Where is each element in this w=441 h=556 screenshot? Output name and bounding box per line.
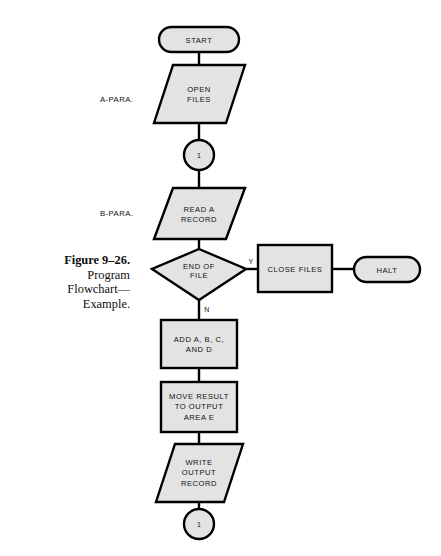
add-abcd-label-line2: AND D: [186, 345, 212, 354]
node-end-of-file-decision[interactable]: END OF FILE: [152, 249, 246, 300]
open-files-label-line2: FILES: [187, 95, 211, 104]
add-abcd-label-line1: ADD A, B, C,: [174, 335, 225, 344]
node-write-output[interactable]: WRITE OUTPUT RECORD: [156, 444, 243, 502]
read-record-label-line1: READ A: [183, 205, 215, 214]
branch-label-no: N: [204, 306, 209, 313]
figure-caption: Figure 9–26. Program Flowchart— Example.: [6, 253, 130, 311]
write-output-label-line3: RECORD: [181, 479, 217, 488]
branch-label-yes: Y: [249, 258, 254, 265]
node-start[interactable]: START: [159, 27, 239, 52]
b-para-label: B-PARA.: [100, 209, 133, 218]
connector-top-label: 1: [197, 152, 201, 159]
caption-line-1: Figure 9–26.: [6, 253, 130, 268]
open-files-label-line1: OPEN: [187, 85, 211, 94]
node-read-record[interactable]: READ A RECORD: [154, 188, 245, 239]
node-close-files[interactable]: CLOSE FILES: [258, 245, 332, 292]
write-output-label-line2: OUTPUT: [182, 468, 217, 477]
node-open-files[interactable]: OPEN FILES: [154, 65, 245, 123]
caption-line-4: Example.: [6, 297, 130, 312]
write-output-label-line1: WRITE: [185, 458, 212, 467]
read-record-label-line2: RECORD: [181, 215, 217, 224]
move-result-label-line3: AREA E: [184, 413, 215, 422]
close-files-label: CLOSE FILES: [267, 265, 322, 274]
a-para-label: A-PARA.: [100, 95, 133, 104]
move-result-label-line2: TO OUTPUT: [175, 402, 224, 411]
end-of-file-label-line2: FILE: [190, 271, 208, 280]
connector-bottom-label: 1: [197, 521, 201, 528]
node-connector-top[interactable]: 1: [184, 140, 214, 170]
node-connector-bottom[interactable]: 1: [184, 509, 214, 539]
program-flowchart-figure: START OPEN FILES 1 READ A RECORD END OF …: [0, 0, 441, 556]
node-halt[interactable]: HALT: [354, 257, 420, 282]
move-result-label-line1: MOVE RESULT: [169, 392, 229, 401]
read-record-io-shape: [154, 188, 245, 239]
caption-line-2: Program: [6, 268, 130, 283]
end-of-file-label-line1: END OF: [183, 262, 215, 271]
node-move-result[interactable]: MOVE RESULT TO OUTPUT AREA E: [161, 382, 237, 432]
start-label: START: [186, 36, 213, 45]
node-add-abcd[interactable]: ADD A, B, C, AND D: [161, 320, 237, 368]
caption-line-3: Flowchart—: [6, 282, 130, 297]
halt-label: HALT: [376, 266, 397, 275]
